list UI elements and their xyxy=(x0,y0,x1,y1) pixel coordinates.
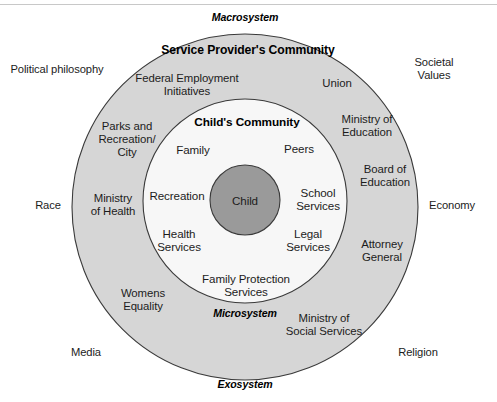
title-service-providers-community: Service Provider's Community xyxy=(161,44,335,58)
label-economy: Economy xyxy=(429,199,475,212)
node-parks-and-recreation-city: Parks and Recreation/ City xyxy=(98,120,155,158)
system-label-exosystem: Exosystem xyxy=(217,379,272,391)
node-school-services: School Services xyxy=(296,186,340,212)
node-federal-employment-initiatives: Federal Employment Initiatives xyxy=(135,72,238,98)
node-legal-services: Legal Services xyxy=(286,227,330,253)
core-label-child: Child xyxy=(232,194,258,207)
node-union: Union xyxy=(322,77,351,90)
node-ministry-of-education: Ministry of Education xyxy=(342,113,393,139)
label-societal-values: Societal Values xyxy=(403,56,466,81)
node-ministry-of-social-services: Ministry of Social Services xyxy=(286,312,362,338)
label-political-philosophy: Political philosophy xyxy=(10,63,103,76)
label-race: Race xyxy=(35,199,61,212)
node-attorney-general: Attorney General xyxy=(361,238,403,264)
node-ministry-of-health: Ministry of Health xyxy=(91,192,136,218)
system-label-microsystem: Microsystem xyxy=(213,308,277,320)
node-board-of-education: Board of Education xyxy=(360,163,410,189)
node-peers: Peers xyxy=(284,142,314,155)
node-family-protection-services: Family Protection Services xyxy=(202,272,290,298)
label-media: Media xyxy=(71,346,101,359)
node-family: Family xyxy=(176,143,210,156)
title-childs-community: Child's Community xyxy=(194,116,299,129)
node-recreation: Recreation xyxy=(149,189,204,202)
label-religion: Religion xyxy=(398,346,438,359)
system-label-macrosystem: Macrosystem xyxy=(212,12,279,24)
node-womens-equality: Womens Equality xyxy=(121,287,165,313)
node-health-services: Health Services xyxy=(157,227,201,253)
ecological-systems-diagram: Macrosystem Microsystem Exosystem Servic… xyxy=(0,0,497,402)
